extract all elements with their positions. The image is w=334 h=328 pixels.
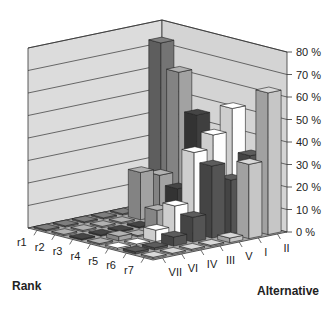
chart-canvas: 0 %10 %20 %30 %40 %50 %60 %70 %80 %r1r2r…: [0, 0, 334, 328]
rank-tick: [70, 239, 73, 244]
rank-tick: [88, 244, 91, 249]
alternative-tick: [258, 238, 261, 243]
rank-tick: [141, 258, 144, 263]
z-tick-label: 60 %: [296, 91, 321, 103]
rank-label: r1: [17, 236, 27, 248]
bar: [162, 231, 187, 246]
alternative-label: V: [245, 250, 253, 262]
z-tick-label: 70 %: [296, 69, 321, 81]
rank-axis-title: Rank: [12, 279, 41, 293]
z-tick-label: 40 %: [296, 136, 321, 148]
rank-label: r3: [53, 245, 63, 257]
alternative-tick: [182, 254, 185, 259]
rank-label: r5: [88, 255, 98, 267]
rank-label: r6: [106, 259, 116, 271]
alternative-label: VI: [188, 262, 198, 274]
rank-tick: [52, 235, 55, 240]
rank-label: r7: [124, 264, 134, 276]
rank-label: r4: [71, 250, 81, 262]
z-tick-label: 30 %: [296, 159, 321, 171]
alternative-label: VII: [169, 266, 182, 278]
alternative-axis-title: Alternative: [257, 284, 319, 298]
z-tick-label: 20 %: [296, 181, 321, 193]
z-tick-label: 0 %: [296, 226, 315, 238]
alternative-label: I: [264, 246, 267, 258]
chart-3d-bar: 0 %10 %20 %30 %40 %50 %60 %70 %80 %r1r2r…: [0, 0, 334, 328]
rank-tick: [123, 253, 126, 258]
alternative-tick: [220, 246, 223, 251]
bar: [237, 159, 262, 239]
rank-tick: [105, 249, 108, 254]
z-tick-label: 50 %: [296, 114, 321, 126]
rank-label: r2: [35, 241, 45, 253]
alternative-tick: [277, 234, 280, 239]
alternative-tick: [201, 250, 204, 255]
alternative-label: II: [283, 242, 289, 254]
z-tick-label: 80 %: [296, 46, 321, 58]
alternative-label: IV: [207, 258, 218, 270]
rank-tick: [34, 230, 37, 235]
z-tick-label: 10 %: [296, 204, 321, 216]
alternative-label: III: [226, 254, 235, 266]
alternative-tick: [163, 258, 166, 263]
alternative-tick: [239, 242, 242, 247]
